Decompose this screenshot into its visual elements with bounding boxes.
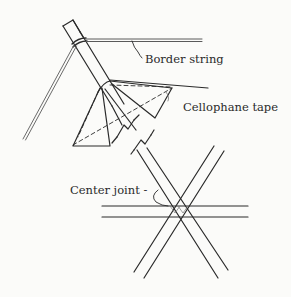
border-string-label: Border string bbox=[145, 54, 224, 66]
border-string-diagonal bbox=[23, 45, 77, 140]
frame-stick-top bbox=[63, 20, 124, 106]
stick-break-lower bbox=[131, 130, 154, 154]
border-string bbox=[86, 39, 202, 42]
cellophane-tape-left bbox=[73, 81, 110, 146]
kite-frame-diagram: Border string Cellophane tape Center joi… bbox=[0, 0, 291, 297]
stick-break-upper bbox=[105, 89, 139, 143]
center-joint-leader bbox=[153, 190, 168, 206]
border-string-leader bbox=[132, 41, 142, 58]
diagram-drawing bbox=[0, 0, 291, 297]
center-joint-label: Center joint - bbox=[70, 185, 147, 197]
center-joint-stick-a bbox=[137, 148, 228, 278]
cellophane-tape-label: Cellophane tape bbox=[183, 102, 278, 114]
